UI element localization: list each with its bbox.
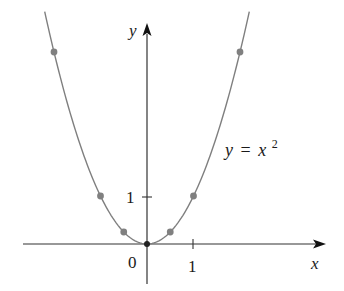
x-tick-label-1: 1 <box>188 257 197 276</box>
y-tick-label-1: 1 <box>126 188 135 207</box>
data-point <box>97 193 104 200</box>
equation-exponent: 2 <box>272 137 278 151</box>
equation-equals: = <box>241 140 251 160</box>
parabola-chart: y x 0 1 1 y = x 2 <box>0 0 344 291</box>
y-axis-label: y <box>127 21 137 40</box>
origin-label: 0 <box>128 253 137 272</box>
data-point <box>144 241 150 247</box>
data-point <box>51 49 58 56</box>
equation-base: x <box>257 140 266 160</box>
data-point <box>167 229 174 236</box>
x-axis-label: x <box>310 254 319 273</box>
equation-label: y = x 2 <box>223 137 278 160</box>
data-point <box>190 193 197 200</box>
data-point <box>120 229 127 236</box>
data-point <box>237 49 244 56</box>
equation-lhs: y <box>223 140 233 160</box>
